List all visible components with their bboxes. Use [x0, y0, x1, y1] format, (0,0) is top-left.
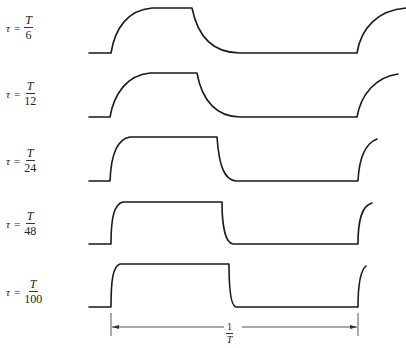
waveform-tau-T-6: [89, 8, 406, 53]
waveform-tau-T-48: [89, 202, 372, 244]
period-label: 1 T: [226, 316, 240, 345]
numerator: 1: [226, 322, 233, 334]
waveform-tau-T-12: [89, 73, 398, 117]
fraction: 1 T: [226, 322, 233, 345]
denominator: T: [227, 334, 233, 345]
waveform-diagram: [0, 0, 406, 348]
arrowhead-left-icon: [112, 325, 119, 329]
waveform-tau-T-100: [89, 264, 366, 307]
arrowhead-right-icon: [350, 325, 357, 329]
waveform-tau-T-24: [89, 137, 377, 181]
